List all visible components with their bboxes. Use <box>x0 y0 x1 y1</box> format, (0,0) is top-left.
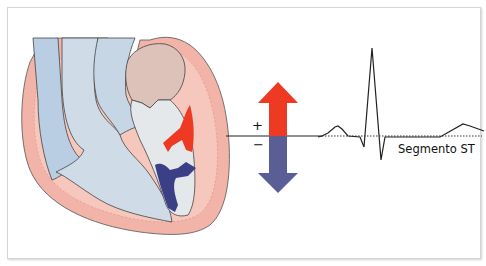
negative-sign-label: − <box>253 137 264 152</box>
positive-sign-label: + <box>252 118 263 133</box>
arrow-down-negative <box>258 136 298 193</box>
heart-diagram <box>0 0 486 266</box>
arrow-up-positive <box>258 82 298 136</box>
heart-illustration <box>22 37 230 234</box>
vector-arrow <box>258 82 298 193</box>
st-segment-label: Segmento ST <box>398 142 475 156</box>
